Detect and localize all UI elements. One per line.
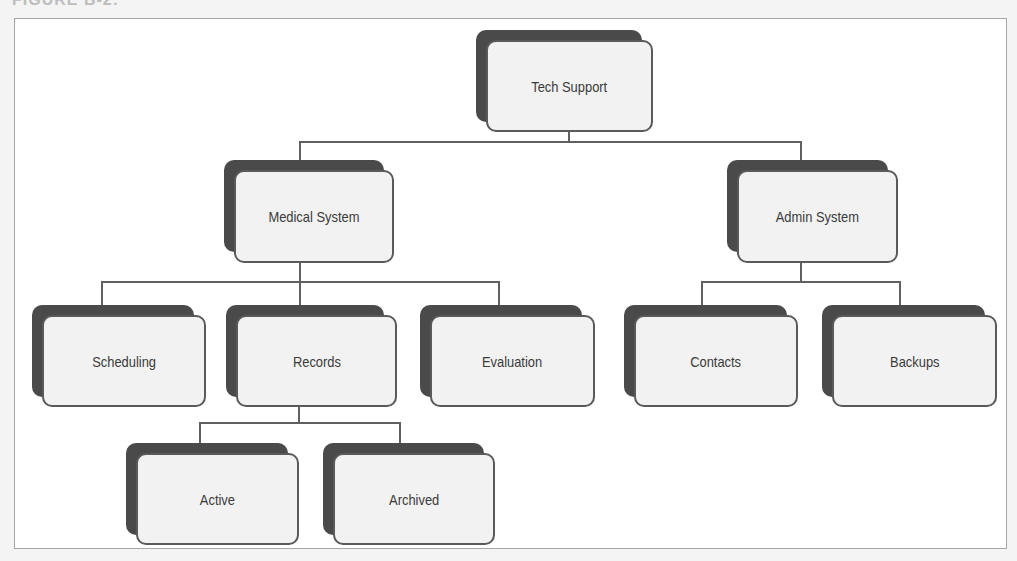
- connector-medical-down: [299, 262, 301, 308]
- connector-to-backups: [899, 281, 901, 308]
- connector-records-horizontal: [199, 422, 401, 424]
- node-records[interactable]: Records: [236, 315, 397, 407]
- node-label: Archived: [389, 491, 439, 508]
- node-label: Contacts: [691, 353, 742, 370]
- node-label: Records: [292, 353, 340, 370]
- node-label: Active: [200, 491, 235, 508]
- figure-label: FIGURE B-2:: [12, 0, 119, 9]
- connector-to-contacts: [701, 281, 703, 308]
- node-admin-system[interactable]: Admin System: [737, 170, 898, 263]
- node-evaluation[interactable]: Evaluation: [430, 315, 595, 407]
- connector-admin-down: [800, 262, 802, 282]
- node-contacts[interactable]: Contacts: [634, 315, 798, 407]
- node-archived[interactable]: Archived: [333, 453, 495, 545]
- node-backups[interactable]: Backups: [832, 315, 997, 407]
- node-tech-support[interactable]: Tech Support: [486, 40, 653, 132]
- node-active[interactable]: Active: [136, 453, 299, 545]
- node-label: Medical System: [268, 208, 359, 225]
- connector-admin-horizontal: [701, 281, 901, 283]
- connector-medical-horizontal: [101, 281, 500, 283]
- node-label: Admin System: [776, 208, 859, 225]
- node-label: Backups: [890, 353, 939, 370]
- node-label: Evaluation: [482, 353, 542, 370]
- node-medical-system[interactable]: Medical System: [234, 170, 394, 263]
- node-label: Scheduling: [92, 353, 156, 370]
- node-scheduling[interactable]: Scheduling: [42, 315, 206, 407]
- connector-to-scheduling: [101, 281, 103, 308]
- node-label: Tech Support: [531, 78, 607, 95]
- connector-to-evaluation: [498, 281, 500, 308]
- connector-root-horizontal: [299, 141, 802, 143]
